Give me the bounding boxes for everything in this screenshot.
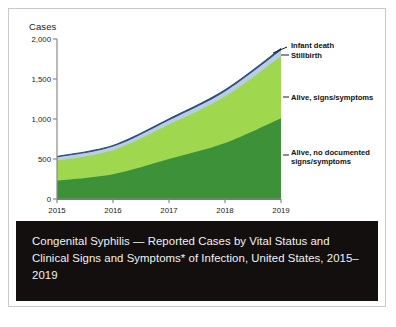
y-tick-label-0: 0 xyxy=(47,195,52,204)
x-tick-label-2015: 2015 xyxy=(48,206,66,215)
x-tick-label-2016: 2016 xyxy=(104,206,121,215)
x-tick-label-2017: 2017 xyxy=(160,206,177,215)
figure-card: Cases 0 500 xyxy=(8,8,386,307)
annotation-stillbirth: Stillbirth xyxy=(291,51,322,60)
y-tick-label-1500: 1,500 xyxy=(31,75,51,84)
figure-caption: Congenital Syphilis — Reported Cases by … xyxy=(32,233,362,284)
annotation-infant-death: Infant death xyxy=(291,41,334,50)
annotation-alive-no-documented-line1: Alive, no documented xyxy=(291,148,370,157)
y-tick-label-1000: 1,000 xyxy=(31,115,51,124)
caption-box: Congenital Syphilis — Reported Cases by … xyxy=(16,221,378,301)
chart-region: Cases 0 500 xyxy=(9,9,385,218)
y-tick-label-2000: 2,000 xyxy=(31,35,51,44)
stacked-area-chart: 0 500 1,000 1,500 2,000 2015 2016 2017 2… xyxy=(9,9,385,218)
annotation-alive-no-documented-line2: signs/symptoms xyxy=(291,157,351,166)
x-tick-label-2019: 2019 xyxy=(272,206,289,215)
annotation-alive-signs-symptoms: Alive, signs/symptoms xyxy=(291,93,373,102)
y-tick-label-500: 500 xyxy=(38,155,52,164)
x-tick-label-2018: 2018 xyxy=(216,206,233,215)
